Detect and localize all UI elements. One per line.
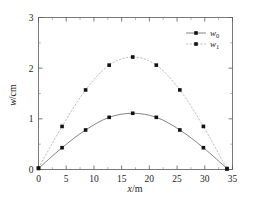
data-point-marker [202,146,206,150]
legend-marker-w0 [194,31,198,35]
data-point-marker [154,63,158,67]
series-line-w0 [39,113,227,168]
chart-legend: w0w1 [186,28,219,50]
data-point-marker [178,88,182,92]
x-tick-label: 25 [172,174,182,184]
data-point-marker [107,116,111,120]
data-point-marker [84,88,88,92]
x-axis-title: x/m [126,183,142,194]
legend-marker-w1 [194,42,198,46]
data-point-marker [178,128,182,132]
y-tick-labels: 0123 [29,13,34,175]
data-point-marker [60,146,64,150]
y-tick-label: 3 [29,13,34,23]
data-point-marker [84,128,88,132]
legend-label-w0: w0 [210,28,219,39]
x-tick-label: 5 [64,174,69,184]
data-series-group [37,55,229,171]
x-tick-label: 10 [89,174,99,184]
legend-label-w1: w1 [210,39,219,50]
x-tick-labels: 05101520253035 [36,174,237,184]
legend-entry-w1: w1 [186,39,219,50]
x-tick-label: 30 [200,174,210,184]
chart-figure: 05101520253035 0123 x/m w/cm w0w1 [0,0,256,202]
data-point-marker [154,116,158,120]
data-point-marker [225,167,229,171]
y-tick-label: 2 [29,64,34,74]
y-tick-label: 0 [29,165,34,175]
data-point-marker [107,63,111,67]
data-point-marker [131,55,135,59]
legend-entry-w0: w0 [186,28,219,39]
y-tick-label: 1 [29,114,34,124]
x-tick-label: 0 [36,174,41,184]
data-point-marker [60,125,64,129]
data-point-marker [37,166,41,170]
y-axis-title: w/cm [7,84,18,106]
x-tick-label: 15 [117,174,127,184]
data-point-marker [202,125,206,129]
data-point-marker [131,111,135,115]
x-tick-label: 20 [145,174,155,184]
x-tick-label: 35 [228,174,238,184]
line-chart: 05101520253035 0123 x/m w/cm w0w1 [0,0,256,202]
